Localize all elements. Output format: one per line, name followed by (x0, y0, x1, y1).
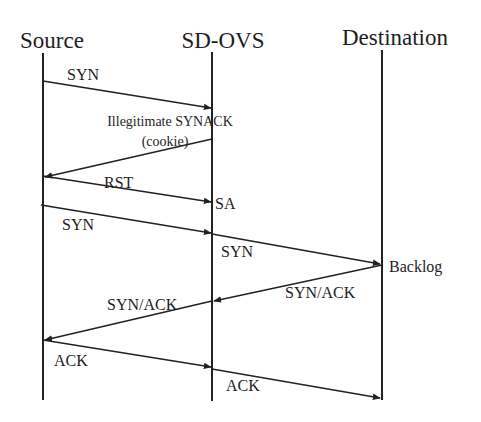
message-label-synack-1: SYN/ACK (285, 284, 356, 301)
message-label-rst: RST (104, 174, 134, 191)
annotation-backlog: Backlog (389, 258, 442, 276)
message-label-syn-2: SYN (62, 216, 94, 233)
sequence-diagram: Source SD-OVS Destination SYN Illegitima… (0, 0, 481, 422)
message-label-ack-2: ACK (226, 377, 260, 394)
message-label-syn-1: SYN (67, 66, 99, 83)
message-label-illegitimate-synack: Illegitimate SYNACK (107, 114, 233, 129)
annotation-sa: SA (215, 195, 236, 212)
actor-label-source: Source (20, 28, 84, 53)
message-label-ack-1: ACK (54, 352, 88, 369)
message-sublabel-cookie: (cookie) (142, 134, 189, 150)
message-arrow-syn-1 (43, 81, 211, 108)
actor-label-sd-ovs: SD-OVS (181, 28, 264, 53)
actor-label-destination: Destination (342, 25, 449, 50)
message-label-syn-3: SYN (221, 243, 253, 260)
message-label-synack-2: SYN/ACK (107, 296, 178, 313)
